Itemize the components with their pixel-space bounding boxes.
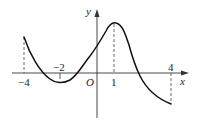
x-axis-label: x	[179, 75, 185, 87]
y-axis-label: y	[85, 5, 91, 17]
origin-label: O	[86, 76, 94, 88]
tick-label-1: 1	[111, 76, 117, 88]
function-graph: y x O −4 −2 1 4	[0, 0, 198, 122]
function-curve	[24, 23, 171, 104]
tick-label-neg4: −4	[18, 76, 30, 88]
tick-label-4: 4	[168, 61, 174, 73]
y-axis-arrow-icon	[95, 9, 100, 17]
tick-label-neg2: −2	[53, 61, 65, 73]
